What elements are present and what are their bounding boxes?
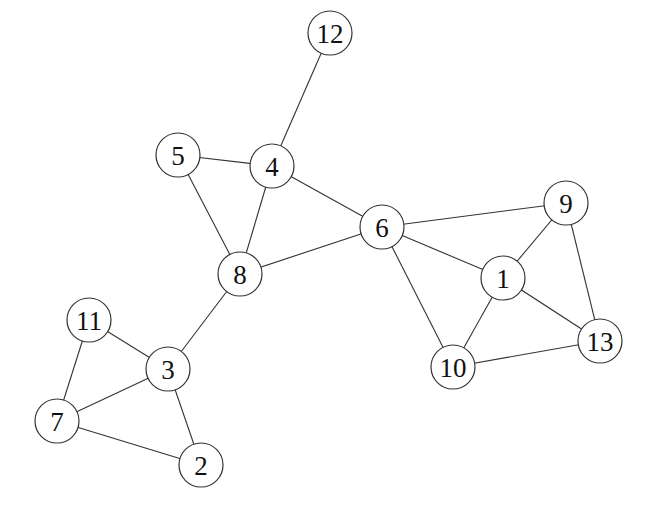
node-label: 6 — [375, 213, 389, 243]
nodes-layer: 12345678910111213 — [35, 11, 622, 487]
node-label: 5 — [171, 141, 185, 171]
node-label: 10 — [440, 353, 467, 383]
node-label: 2 — [194, 451, 208, 481]
node-label: 7 — [50, 407, 64, 437]
node-13: 13 — [578, 319, 622, 363]
node-label: 8 — [233, 260, 247, 290]
node-10: 10 — [431, 345, 475, 389]
node-8: 8 — [218, 252, 262, 296]
node-label: 12 — [317, 19, 344, 49]
edge-6-10 — [382, 227, 453, 367]
graph-diagram: 12345678910111213 — [0, 0, 650, 526]
node-5: 5 — [156, 133, 200, 177]
node-label: 9 — [559, 189, 573, 219]
node-label: 3 — [161, 355, 175, 385]
node-3: 3 — [146, 347, 190, 391]
node-label: 4 — [265, 152, 279, 182]
edge-6-9 — [382, 203, 566, 227]
node-4: 4 — [250, 144, 294, 188]
node-11: 11 — [67, 298, 111, 342]
node-7: 7 — [35, 399, 79, 443]
node-label: 11 — [76, 306, 102, 336]
node-6: 6 — [360, 205, 404, 249]
graph-svg: 12345678910111213 — [0, 0, 650, 526]
node-2: 2 — [179, 443, 223, 487]
node-label: 13 — [587, 327, 614, 357]
node-1: 1 — [481, 256, 525, 300]
node-9: 9 — [544, 181, 588, 225]
node-12: 12 — [308, 11, 352, 55]
node-label: 1 — [496, 264, 510, 294]
edges-layer — [57, 33, 600, 465]
